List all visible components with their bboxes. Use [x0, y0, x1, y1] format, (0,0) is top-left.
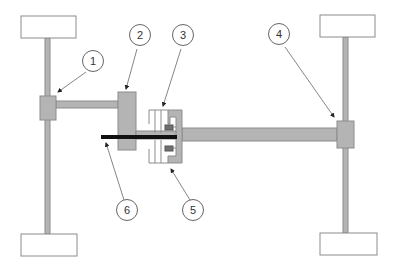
wheel-bottom-right: [320, 233, 377, 255]
leader-line-2: [126, 49, 137, 89]
callout-5: 5: [183, 200, 204, 221]
callout-label-3: 3: [180, 29, 186, 41]
callout-3: 3: [173, 25, 194, 46]
leader-line-1: [58, 72, 86, 92]
callout-label-5: 5: [190, 204, 196, 216]
clutch-pad-bottom: [165, 146, 173, 151]
callout-2: 2: [130, 25, 151, 46]
callout-label-6: 6: [124, 204, 130, 216]
clutch-pad-top: [165, 125, 173, 130]
callout-label-2: 2: [137, 29, 143, 41]
leader-line-4: [285, 47, 334, 117]
leader-line-3: [163, 49, 181, 106]
wheel-bottom-left: [21, 234, 77, 256]
callout-6: 6: [117, 200, 138, 221]
leader-line-5: [171, 169, 190, 200]
wheel-top-left: [21, 16, 76, 38]
transmission-block: [118, 92, 136, 150]
left-axle: [45, 38, 50, 234]
rear-differential-hub: [337, 121, 354, 148]
leader-line-6: [106, 143, 124, 200]
main-drive-shaft: [182, 128, 337, 141]
wheel-top-right: [320, 15, 375, 37]
callout-label-1: 1: [90, 55, 96, 67]
callout-label-4: 4: [276, 28, 282, 40]
front-shaft: [56, 101, 118, 108]
control-rod: [101, 135, 177, 139]
left-differential-hub: [40, 96, 56, 120]
callout-1: 1: [83, 51, 104, 72]
drivetrain-diagram: 1 2 3 4 5 6: [0, 0, 395, 271]
callout-4: 4: [269, 24, 290, 45]
